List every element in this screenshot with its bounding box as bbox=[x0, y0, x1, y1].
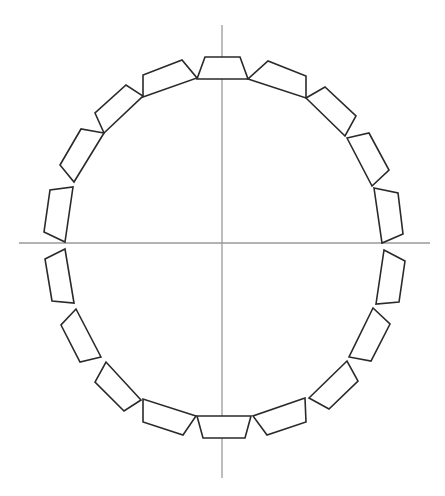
segmented-ring-diagram bbox=[0, 0, 445, 496]
ring-segments bbox=[44, 57, 405, 438]
ring-segment-top-right-1 bbox=[248, 61, 306, 98]
ring-segment-right-upper bbox=[374, 188, 403, 243]
ring-segment-bottom-right-3 bbox=[349, 308, 390, 361]
ring-segment-top-left-1 bbox=[143, 60, 197, 97]
ring-segment-bottom-left-3 bbox=[61, 309, 101, 362]
ring-segment-left-upper bbox=[44, 187, 73, 242]
ring-segment-bottom-left-2 bbox=[95, 362, 141, 411]
ring-segment-top-left-2 bbox=[95, 85, 143, 133]
ring-segment-top-right-2 bbox=[306, 87, 356, 136]
ring-segment-bottom bbox=[197, 416, 251, 438]
ring-segment-top-left-3 bbox=[60, 129, 104, 182]
ring-segment-bottom-right-1 bbox=[253, 398, 306, 435]
ring-segment-left-lower bbox=[45, 249, 74, 303]
ring-segment-top-right-3 bbox=[347, 133, 389, 186]
ring-segment-bottom-left-1 bbox=[143, 399, 196, 435]
ring-segment-bottom-right-2 bbox=[309, 361, 358, 409]
ring-segment-right-lower bbox=[376, 250, 405, 304]
ring-segment-top bbox=[197, 57, 248, 79]
